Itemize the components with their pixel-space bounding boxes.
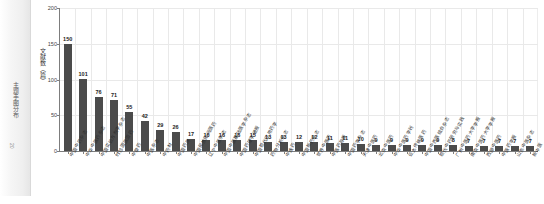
bar-item[interactable]: 11 [326,8,334,151]
bar-item[interactable]: 26 [172,8,180,151]
y-axis-tick-label: 200 [48,5,57,11]
sidebar-item-label: 主题手图分布 [12,82,19,118]
x-axis-tick-mark [129,151,130,154]
x-axis-tick-mark [83,151,84,154]
x-axis-tick-mark [160,151,161,154]
plot-area: 050100150200 文献数（篇） 15010176715542292617… [59,8,538,152]
x-axis-tick-mark [453,151,454,154]
bar-item[interactable]: 17 [187,8,195,151]
bar-item[interactable]: 42 [141,8,149,151]
bar-item[interactable]: 150 [64,8,72,151]
bar-item[interactable]: 11 [341,8,349,151]
x-axis-tick-mark [345,151,346,154]
bar-value-label: 26 [173,124,179,131]
x-axis-tick-mark [499,151,500,154]
x-axis-tick-mark [422,151,423,154]
bar-item[interactable]: 9 [372,8,380,151]
y-axis-tick-mark [57,151,60,152]
bar-value-label: 101 [79,71,88,78]
x-axis-tick-mark [314,151,315,154]
y-axis-title: 文献数（篇） [38,48,47,84]
bar-item[interactable]: 29 [156,8,164,151]
bar-rect[interactable] [64,44,72,151]
sidebar-panel[interactable]: 主题手图分布 20 [0,0,31,196]
bar-value-label: 55 [126,104,132,111]
bar-rect[interactable] [172,132,180,151]
chart-container: 050100150200 文献数（篇） 15010176715542292617… [31,0,542,196]
bar-value-label: 71 [111,92,117,99]
x-axis-tick-mark [206,151,207,154]
bar-value-label: 150 [63,36,72,43]
x-axis-tick-mark [376,151,377,154]
x-axis-tick-mark [191,151,192,154]
bar-item[interactable]: 12 [295,8,303,151]
x-axis-tick-mark [484,151,485,154]
bar-value-label: 29 [157,122,163,129]
bar-item[interactable]: 7 [511,8,519,151]
sidebar-item-topic-distribution[interactable]: 主题手图分布 [7,60,23,140]
bar-value-label: 17 [188,131,194,138]
bar-value-label: 12 [296,134,302,141]
x-axis-tick-mark [299,151,300,154]
x-axis-tick-mark [237,151,238,154]
bar-rect[interactable] [141,121,149,151]
x-axis-tick-mark [268,151,269,154]
bar-item[interactable]: 9 [388,8,396,151]
x-axis-tick-mark [530,151,531,154]
bar-item[interactable]: 7 [495,8,503,151]
x-axis-labels: 中国中药杂志中华中医药杂志中国实验方剂学杂志时珍国医国药中草药中医杂志中药材中国… [60,155,538,204]
bar-value-label: 76 [95,89,101,96]
y-axis-tick-label: 100 [48,77,57,83]
y-axis-tick-label: 150 [48,41,57,47]
sidebar-count-label: 20 [9,143,15,149]
bar-value-label: 42 [142,113,148,120]
